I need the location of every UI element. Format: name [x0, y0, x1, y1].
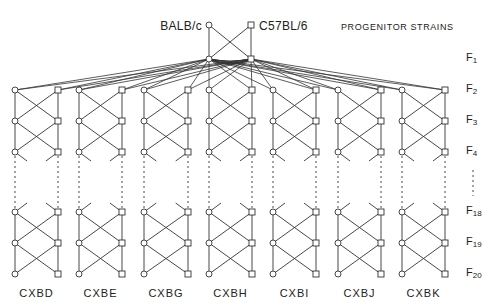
female-node-icon: [270, 149, 276, 155]
female-node-icon: [12, 240, 18, 246]
male-node-icon: [378, 209, 384, 215]
male-node-icon: [313, 87, 319, 93]
male-node-icon: [442, 87, 448, 93]
male-node-icon: [185, 149, 191, 155]
strain-label-cxbd: CXBD: [7, 287, 67, 299]
male-node-icon: [378, 240, 384, 246]
female-node-icon: [399, 271, 405, 277]
female-node-icon: [141, 149, 147, 155]
strain-label-cxbj: CXBJ: [330, 287, 390, 299]
male-node-icon: [378, 149, 384, 155]
strain-label-cxbh: CXBH: [201, 287, 261, 299]
male-node-icon: [185, 87, 191, 93]
female-node-icon: [206, 87, 212, 93]
f1-to-f2-line: [251, 59, 381, 90]
female-node-icon: [399, 149, 405, 155]
female-node-icon: [335, 240, 341, 246]
f1-male-node-icon: [248, 56, 254, 62]
male-node-icon: [119, 271, 125, 277]
female-node-icon: [206, 118, 212, 124]
female-node-icon: [76, 149, 82, 155]
balbc-parent-node-icon: [206, 22, 212, 28]
female-node-icon: [141, 209, 147, 215]
female-node-icon: [335, 87, 341, 93]
female-node-icon: [399, 209, 405, 215]
male-node-icon: [55, 209, 61, 215]
generation-subscript: 2: [473, 87, 477, 96]
male-node-icon: [442, 271, 448, 277]
female-node-icon: [141, 240, 147, 246]
male-node-icon: [55, 118, 61, 124]
generation-label-f4: F4: [466, 144, 477, 158]
male-node-icon: [378, 118, 384, 124]
f1-to-f2-line: [15, 59, 209, 90]
female-node-icon: [76, 209, 82, 215]
male-node-icon: [185, 118, 191, 124]
male-node-icon: [313, 240, 319, 246]
strain-label-cxbe: CXBE: [71, 287, 131, 299]
male-node-icon: [249, 118, 255, 124]
female-node-icon: [12, 209, 18, 215]
male-node-icon: [442, 149, 448, 155]
female-node-icon: [206, 240, 212, 246]
generation-subscript: 1: [473, 56, 477, 65]
male-node-icon: [313, 118, 319, 124]
male-node-icon: [442, 209, 448, 215]
male-node-icon: [55, 271, 61, 277]
male-node-icon: [185, 240, 191, 246]
female-node-icon: [270, 271, 276, 277]
generation-subscript: 4: [473, 149, 477, 158]
female-node-icon: [141, 271, 147, 277]
strain-label-cxbg: CXBG: [136, 287, 196, 299]
male-node-icon: [378, 271, 384, 277]
male-node-icon: [249, 240, 255, 246]
progenitor-strains-title: PROGENITOR STRAINS: [341, 22, 454, 32]
strain-label-cxbi: CXBI: [265, 287, 325, 299]
generation-label-f18: F18: [466, 204, 482, 218]
male-node-icon: [119, 240, 125, 246]
generation-subscript: 20: [473, 271, 482, 280]
male-node-icon: [55, 87, 61, 93]
female-node-icon: [270, 87, 276, 93]
generation-label-f3: F3: [466, 113, 477, 127]
f1-to-f2-line: [251, 59, 445, 90]
generation-label-f2: F2: [466, 82, 477, 96]
balbc-label: BALB/c: [160, 19, 202, 33]
f1-to-f2-line: [79, 59, 209, 90]
male-node-icon: [313, 149, 319, 155]
female-node-icon: [12, 118, 18, 124]
male-node-icon: [249, 209, 255, 215]
male-node-icon: [55, 149, 61, 155]
male-node-icon: [313, 209, 319, 215]
female-node-icon: [270, 240, 276, 246]
female-node-icon: [76, 240, 82, 246]
f1-to-f2-line: [209, 59, 381, 90]
generation-label-f20: F20: [466, 266, 482, 280]
male-node-icon: [442, 240, 448, 246]
female-node-icon: [12, 271, 18, 277]
c57bl6-parent-node-icon: [248, 22, 254, 28]
female-node-icon: [76, 118, 82, 124]
female-node-icon: [270, 209, 276, 215]
male-node-icon: [119, 209, 125, 215]
generation-subscript: 3: [473, 118, 477, 127]
female-node-icon: [335, 118, 341, 124]
male-node-icon: [119, 149, 125, 155]
generation-label-f19: F19: [466, 235, 482, 249]
female-node-icon: [270, 118, 276, 124]
female-node-icon: [335, 149, 341, 155]
generation-label-f1: F1: [466, 51, 477, 65]
f1-female-node-icon: [206, 56, 212, 62]
male-node-icon: [119, 87, 125, 93]
female-node-icon: [399, 240, 405, 246]
male-node-icon: [55, 240, 61, 246]
female-node-icon: [141, 87, 147, 93]
female-node-icon: [335, 271, 341, 277]
male-node-icon: [442, 118, 448, 124]
female-node-icon: [335, 209, 341, 215]
recombinant-inbred-breeding-diagram: [0, 0, 498, 307]
c57bl6-label: C57BL/6: [259, 19, 308, 33]
male-node-icon: [249, 149, 255, 155]
generation-subscript: 18: [473, 209, 482, 218]
male-node-icon: [313, 271, 319, 277]
